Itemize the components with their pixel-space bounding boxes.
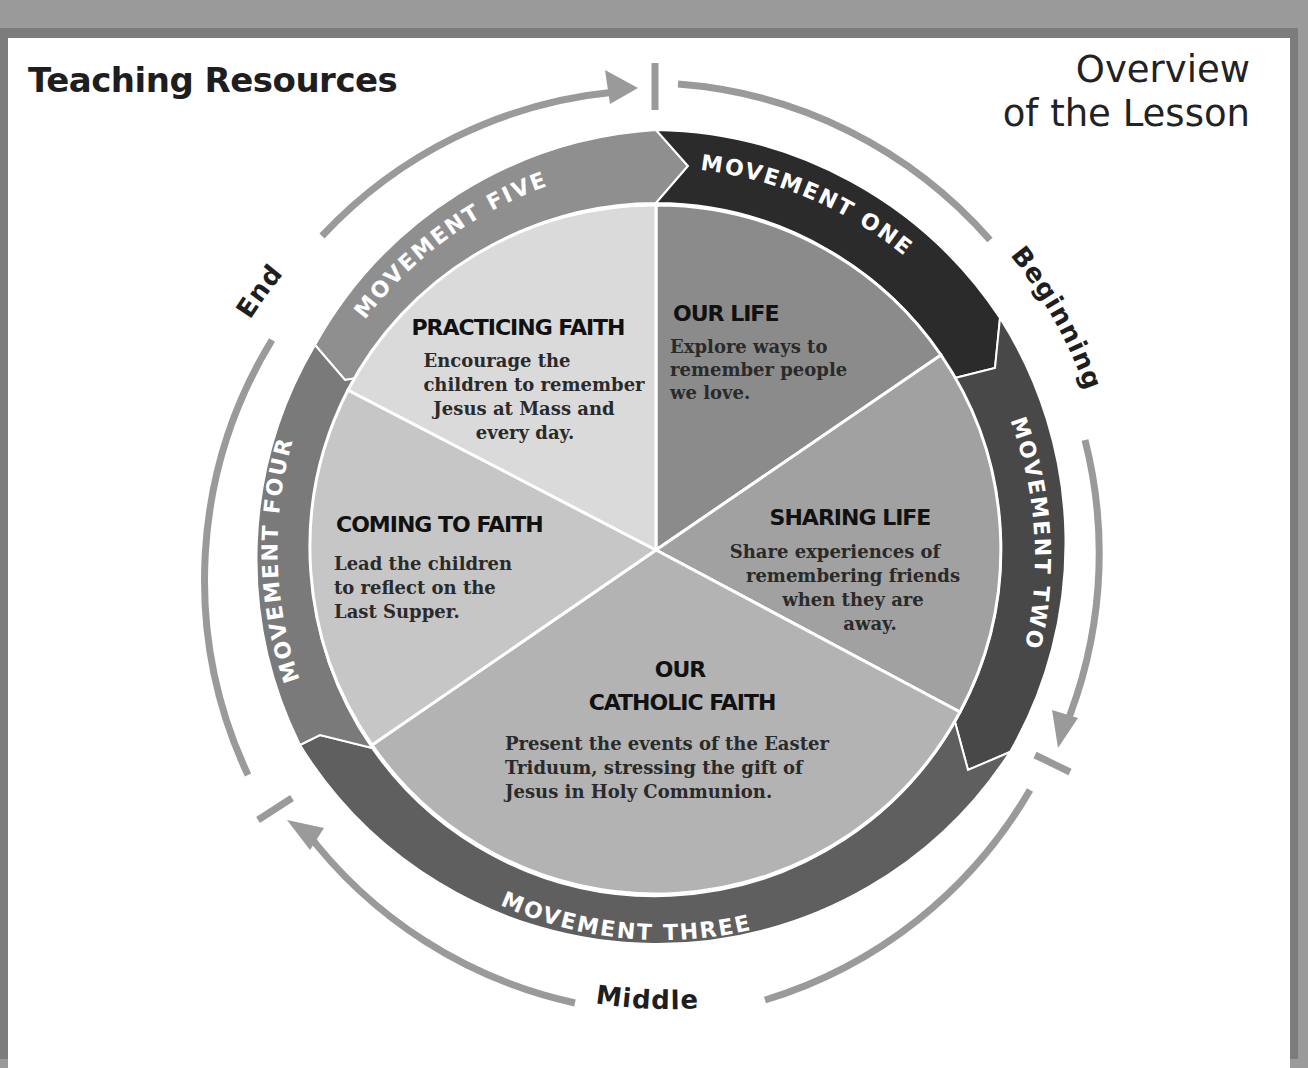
segment-text-line: Triduum, stressing the gift of [505,757,804,778]
segment-title: OUR LIFE [673,301,778,326]
segment-text-line: Present the events of the Easter [505,733,829,754]
segment-text-line: when they are [781,589,924,610]
arrow-icon-top [605,70,638,104]
segment-text-line: we love. [669,382,750,403]
segment-text-line: remembering friends [746,565,960,586]
segment-text-line: Explore ways to [670,336,827,357]
segment-text-line: remember people [670,359,847,380]
phase-label-middle: Middle [594,979,699,1015]
segment-title: PRACTICING FAITH [411,315,624,340]
segment-title-line-1: OUR [655,657,707,682]
tick-bottom-left [258,798,292,820]
segment-text-line: Jesus at Mass and [431,398,615,419]
segment-text-line: to reflect on the [334,577,496,598]
guide-arc-right [1064,440,1099,730]
segment-title: COMING TO FAITH [336,512,543,537]
segment-text-line: every day. [476,422,574,443]
arrow-icon-right [1052,710,1078,748]
segment-text-line: Last Supper. [334,601,460,622]
segment-text-line: Jesus in Holy Communion. [503,781,772,802]
segment-text-line: Encourage the [423,350,570,371]
segment-text-line: away. [843,613,896,634]
segment-title-line-2: CATHOLIC FAITH [589,690,776,715]
phase-label-end: End [230,258,289,323]
segment-text-line: children to remember [423,374,645,395]
segment-title: SHARING LIFE [770,505,931,530]
tick-bottom-right [1035,755,1070,772]
segment-text-line: Share experiences of [730,541,942,562]
segment-text-line: Lead the children [334,553,512,574]
